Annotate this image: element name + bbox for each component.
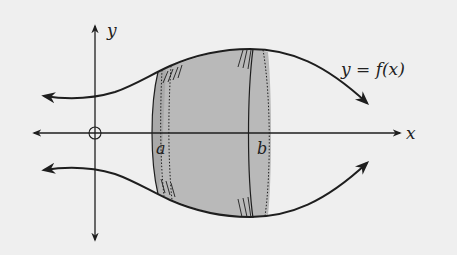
diagram-canvas: y x a b y = f(x) xyxy=(0,0,457,255)
diagram-svg: y x a b y = f(x) xyxy=(0,0,457,255)
x-axis-label: x xyxy=(406,123,416,143)
y-axis-label: y xyxy=(106,20,117,40)
upper-bound-label: b xyxy=(257,139,267,158)
function-label: y = f(x) xyxy=(340,59,405,79)
lower-bound-label: a xyxy=(156,139,166,158)
